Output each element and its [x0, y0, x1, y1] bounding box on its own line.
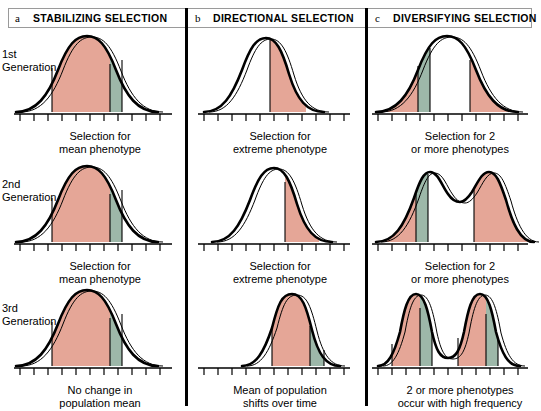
caption-b1: Selection for extreme phenotype: [190, 130, 370, 156]
shaded-region-primary: [52, 164, 110, 244]
caption-a1: Selection for mean phenotype: [10, 130, 190, 156]
shaded-region-primary: [272, 288, 310, 368]
header-strip: a STABILIZING SELECTION b DIRECTIONAL SE…: [8, 8, 532, 28]
column-title-c: DIVERSIFYING SELECTION: [393, 12, 537, 24]
caption-a3: No change in population mean: [10, 384, 190, 410]
plot-b2: [190, 164, 370, 260]
caption-c3: 2 or more phenotypes occur with high fre…: [370, 384, 541, 410]
caption-c1: Selection for 2 or more phenotypes: [370, 130, 541, 156]
curve-c2: [370, 164, 540, 260]
axis-ticks: [204, 244, 344, 251]
plot-a2: [12, 164, 192, 260]
current-generation-curve: [376, 36, 518, 112]
shaded-region-left: [370, 34, 418, 114]
panel-b2: Selection for extreme phenotype: [190, 164, 370, 288]
shaded-region-primary: [52, 288, 110, 368]
curve-b1: [190, 34, 360, 130]
curve-b3: [190, 288, 360, 384]
caption-b2: Selection for extreme phenotype: [190, 260, 370, 286]
plot-c2: [370, 164, 541, 260]
panel-c2: Selection for 2 or more phenotypes: [370, 164, 541, 288]
column-letter-c: c: [375, 12, 393, 24]
plot-c3: [370, 288, 541, 384]
axis-ticks: [20, 244, 160, 251]
curve-b2: [190, 164, 360, 260]
natural-selection-figure: a STABILIZING SELECTION b DIRECTIONAL SE…: [0, 0, 541, 411]
axis-ticks: [378, 368, 518, 375]
plot-a1: [12, 34, 192, 130]
shaded-region-secondary: [110, 164, 122, 244]
plot-b1: [190, 34, 370, 130]
axis-ticks: [20, 114, 160, 121]
panel-b1: Selection for extreme phenotype: [190, 34, 370, 158]
column-letter-b: b: [195, 12, 213, 24]
axis-ticks: [378, 244, 518, 251]
curve-c1: [370, 34, 540, 130]
curve-a3: [12, 288, 182, 384]
panel-c3: 2 or more phenotypes occur with high fre…: [370, 288, 541, 411]
shaded-region-secondary: [110, 34, 122, 114]
plot-c1: [370, 34, 541, 130]
caption-c2: Selection for 2 or more phenotypes: [370, 260, 541, 286]
caption-b3: Mean of population shifts over time: [190, 384, 370, 410]
panel-c1: Selection for 2 or more phenotypes: [370, 34, 541, 158]
caption-a2: Selection for mean phenotype: [10, 260, 190, 286]
axis-ticks: [20, 368, 160, 375]
column-header-c: c DIVERSIFYING SELECTION: [375, 9, 537, 27]
curve-a1: [12, 34, 182, 130]
panel-a2: 2nd Generation Selection for mean phenot…: [2, 164, 182, 288]
axis-ticks: [204, 114, 344, 121]
shaded-region-primary: [52, 34, 110, 114]
column-header-b: b DIRECTIONAL SELECTION: [195, 9, 354, 27]
shaded-region-secondary: [110, 288, 122, 368]
shaded-region-left: [370, 164, 416, 244]
axis-ticks: [204, 368, 344, 375]
axis-ticks: [378, 114, 518, 121]
panel-b3: Mean of population shifts over time: [190, 288, 370, 411]
shaded-region-right: [470, 34, 530, 114]
panel-a3: 3rd Generation No change in population m…: [2, 288, 182, 411]
panel-a1: 1st Generation Selection for mean phenot…: [2, 34, 182, 158]
plot-b3: [190, 288, 370, 384]
curve-a2: [12, 164, 182, 260]
plot-a3: [12, 288, 192, 384]
column-title-b: DIRECTIONAL SELECTION: [213, 12, 354, 24]
column-letter-a: a: [15, 12, 33, 24]
curve-c3: [370, 288, 540, 384]
column-header-a: a STABILIZING SELECTION: [15, 9, 167, 27]
shaded-region-secondary: [418, 34, 430, 114]
column-title-a: STABILIZING SELECTION: [33, 12, 167, 24]
